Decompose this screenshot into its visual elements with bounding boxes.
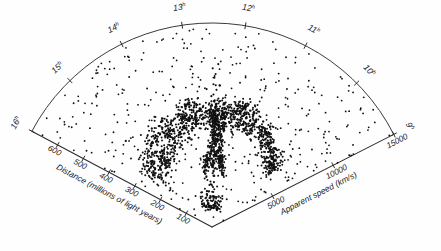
- galaxy-point: [247, 112, 249, 114]
- galaxy-point: [215, 112, 217, 114]
- galaxy-point: [292, 148, 294, 150]
- galaxy-point: [168, 141, 170, 143]
- galaxy-point: [182, 115, 184, 117]
- galaxy-point: [209, 197, 211, 199]
- galaxy-point: [201, 196, 203, 198]
- galaxy-point: [229, 113, 231, 115]
- galaxy-point: [214, 57, 216, 59]
- galaxy-point: [73, 102, 75, 104]
- galaxy-point: [245, 106, 247, 108]
- galaxy-point: [226, 198, 228, 200]
- galaxy-point: [222, 104, 224, 106]
- galaxy-point: [169, 139, 171, 141]
- galaxy-point: [228, 144, 230, 146]
- galaxy-point: [247, 104, 249, 106]
- galaxy-point: [225, 175, 227, 177]
- galaxy-point: [368, 126, 370, 128]
- galaxy-point: [329, 152, 331, 154]
- galaxy-point: [249, 132, 251, 134]
- galaxy-point: [213, 195, 215, 197]
- galaxy-point: [184, 139, 186, 141]
- galaxy-point: [123, 144, 125, 146]
- galaxy-point: [271, 158, 273, 160]
- galaxy-point: [190, 166, 192, 168]
- galaxy-point: [165, 181, 167, 183]
- galaxy-point: [171, 66, 173, 68]
- galaxy-point: [212, 67, 214, 69]
- galaxy-point: [96, 69, 98, 71]
- galaxy-point: [144, 104, 146, 106]
- galaxy-point: [161, 39, 163, 41]
- galaxy-point: [251, 172, 253, 174]
- galaxy-point: [186, 118, 188, 120]
- galaxy-point: [153, 181, 155, 183]
- galaxy-point: [179, 132, 181, 134]
- galaxy-point: [117, 121, 119, 123]
- galaxy-point: [173, 160, 175, 162]
- galaxy-point: [262, 139, 264, 141]
- galaxy-point: [199, 163, 201, 165]
- galaxy-point: [197, 76, 199, 78]
- galaxy-point: [188, 125, 190, 127]
- galaxy-point: [175, 104, 177, 106]
- galaxy-point: [191, 98, 193, 100]
- galaxy-point: [96, 105, 98, 107]
- galaxy-point: [212, 199, 214, 201]
- galaxy-point: [272, 41, 274, 43]
- galaxy-point: [113, 171, 115, 173]
- galaxy-point: [215, 73, 217, 75]
- galaxy-point: [151, 151, 153, 153]
- galaxy-point: [265, 165, 267, 167]
- galaxy-point: [252, 118, 254, 120]
- galaxy-point: [215, 138, 217, 140]
- galaxy-point: [178, 123, 180, 125]
- galaxy-point: [318, 103, 320, 105]
- galaxy-point: [278, 73, 280, 75]
- galaxy-point: [158, 158, 160, 160]
- galaxy-point: [59, 137, 61, 139]
- galaxy-point: [213, 123, 215, 125]
- galaxy-point: [149, 170, 151, 172]
- galaxy-point: [205, 122, 207, 124]
- galaxy-point: [270, 123, 272, 125]
- galaxy-point: [278, 107, 280, 109]
- galaxy-point: [311, 149, 313, 151]
- galaxy-point: [219, 68, 221, 70]
- galaxy-point: [285, 104, 287, 106]
- galaxy-point: [271, 152, 273, 154]
- galaxy-point: [203, 202, 205, 204]
- galaxy-point: [194, 123, 196, 125]
- galaxy-point: [212, 77, 214, 79]
- galaxy-point: [71, 126, 73, 128]
- galaxy-point: [161, 172, 163, 174]
- redshift-wedge-figure: 100200300400500600Distance (millions of …: [0, 0, 441, 251]
- galaxy-point: [150, 99, 152, 101]
- galaxy-point: [172, 147, 174, 149]
- galaxy-point: [314, 92, 316, 94]
- galaxy-point: [161, 156, 163, 158]
- galaxy-point: [184, 105, 186, 107]
- galaxy-point: [125, 47, 127, 49]
- galaxy-point: [216, 154, 218, 156]
- galaxy-point: [289, 143, 291, 145]
- galaxy-point: [287, 98, 289, 100]
- galaxy-point: [121, 162, 123, 164]
- galaxy-point: [165, 163, 167, 165]
- ra-tick-label-10h: 10h: [362, 62, 378, 78]
- galaxy-point: [174, 158, 176, 160]
- galaxy-point: [174, 150, 176, 152]
- galaxy-point: [286, 172, 288, 174]
- galaxy-point: [324, 131, 326, 133]
- galaxy-point: [217, 114, 219, 116]
- galaxy-point: [160, 155, 162, 157]
- galaxy-point: [187, 141, 189, 143]
- galaxy-point: [195, 195, 197, 197]
- galaxy-point: [218, 110, 220, 112]
- galaxy-point: [186, 104, 188, 106]
- galaxy-point: [295, 134, 297, 136]
- galaxy-point: [270, 128, 272, 130]
- galaxy-point: [173, 181, 175, 183]
- galaxy-point: [206, 179, 208, 181]
- galaxy-point: [141, 171, 143, 173]
- galaxy-point: [176, 135, 178, 137]
